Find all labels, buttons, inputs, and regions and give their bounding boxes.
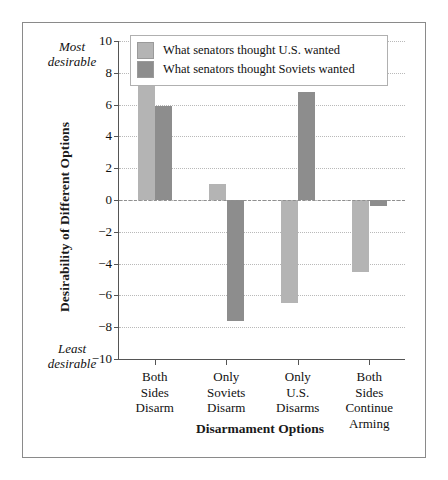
y-tick-label: 4 [106,128,113,144]
legend-item: What senators thought U.S. wanted [137,41,381,60]
y-axis-title: Desirability of Different Options [57,112,73,322]
y-tick-label: 10 [99,33,112,49]
legend-item-label: What senators thought Soviets wanted [163,62,355,77]
legend-item: What senators thought Soviets wanted [137,60,381,79]
x-tick-mark [155,359,156,365]
bar [138,76,155,200]
zero-line [119,200,405,201]
x-tick-label: BothSidesContinueArming [324,369,414,431]
legend-swatch-icon [137,61,154,78]
bar [227,200,244,321]
bar [298,92,315,200]
y-tick-label: −6 [98,287,112,303]
bar [209,184,226,200]
y-tick-label: 6 [106,97,113,113]
bar [352,200,369,272]
bar [281,200,298,303]
y-tick-label: 2 [106,160,113,176]
y-tick-label: 0 [106,192,113,208]
x-tick-mark [226,359,227,365]
chart-figure: Mostdesirable Leastdesirable Desirabilit… [22,22,426,458]
legend: What senators thought U.S. wanted What s… [130,35,388,86]
x-tick-mark [298,359,299,365]
y-tick-label: −4 [98,256,112,272]
most-desirable-annotation: Mostdesirable [35,39,109,69]
bar [155,106,172,200]
legend-swatch-icon [137,42,154,59]
legend-item-label: What senators thought U.S. wanted [163,43,340,58]
y-tick-mark [114,359,119,360]
plot-area: 1086420−2−4−6−8−10BothSidesDisarmOnlySov… [118,41,405,360]
y-tick-label: −8 [98,319,112,335]
x-tick-mark [369,359,370,365]
plot-inner: 1086420−2−4−6−8−10BothSidesDisarmOnlySov… [119,41,405,359]
y-tick-label: −10 [92,351,112,367]
y-tick-label: −2 [98,224,112,240]
y-tick-label: 8 [106,65,113,81]
